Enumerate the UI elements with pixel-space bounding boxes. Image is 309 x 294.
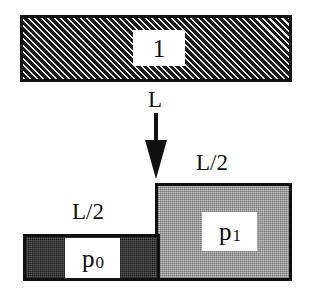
right-block-size-label: L/2 <box>196 151 228 174</box>
left-block-size-label: L/2 <box>72 200 104 223</box>
top-block-label: 1 <box>153 36 166 61</box>
down-arrow-icon <box>139 113 173 179</box>
left-block-label-plate: p0 <box>65 238 120 278</box>
left-block-label: p <box>82 246 95 271</box>
right-block-label-subscript: 1 <box>233 227 242 244</box>
top-block-label-plate: 1 <box>133 30 185 66</box>
left-block-label-subscript: 0 <box>96 254 105 271</box>
right-block-label: p <box>219 219 232 244</box>
diagram-canvas: 1 L L/2 p1 L/2 p0 <box>0 0 309 294</box>
right-block-label-plate: p1 <box>202 212 257 251</box>
length-label-L: L <box>148 88 162 111</box>
